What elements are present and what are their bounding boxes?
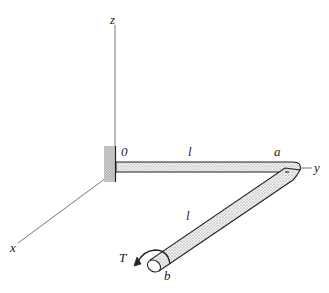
y-axis-label: y [312,160,320,175]
bar-segment-0a [116,162,300,172]
corner-a-label: a [274,144,281,159]
bar-segment-ab [150,168,300,271]
x-axis-label: x [9,240,16,255]
x-axis [18,178,106,243]
fixed-wall-support [104,146,115,182]
torque-label: T [119,250,127,265]
origin-label: 0 [121,144,128,159]
end-b-label: b [164,268,171,283]
diagram-canvas: z x y 0 l a l T b [0,0,329,293]
segment1-length-label: l [188,144,192,159]
z-axis-label: z [109,12,115,27]
segment2-length-label: l [186,208,190,223]
